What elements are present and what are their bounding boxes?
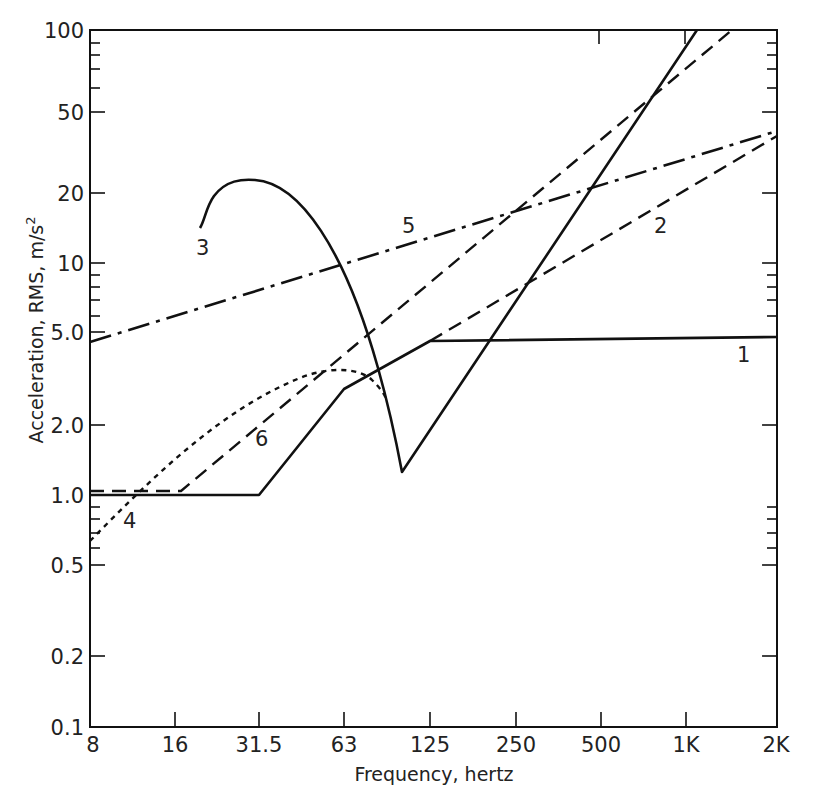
plot-frame (90, 30, 777, 727)
x-axis-ticks (175, 30, 686, 727)
y-axis-left-ticks (90, 43, 105, 656)
x-tick-1k: 1K (672, 733, 700, 757)
curve-5 (90, 131, 777, 342)
x-axis-title: Frequency, hertz (354, 763, 513, 785)
y-tick-100: 100 (44, 19, 84, 43)
curve-1 (90, 337, 777, 495)
curve-label-5: 5 (402, 214, 415, 238)
x-tick-500: 500 (581, 733, 621, 757)
x-tick-63: 63 (331, 733, 358, 757)
x-tick-2k: 2K (762, 733, 790, 757)
x-tick-250: 250 (496, 733, 536, 757)
x-tick-31.5: 31.5 (236, 733, 283, 757)
acceleration-frequency-chart: 0.1 0.2 0.5 1.0 2.0 5.0 10 20 50 100 8 1… (0, 0, 813, 802)
y-tick-0.2: 0.2 (51, 645, 84, 669)
x-tick-125: 125 (410, 733, 450, 757)
curve-label-6: 6 (255, 427, 268, 451)
y-tick-0.5: 0.5 (51, 554, 84, 578)
y-tick-10: 10 (57, 252, 84, 276)
y-tick-50: 50 (57, 101, 84, 125)
curve-3 (200, 30, 697, 472)
curve-label-3: 3 (196, 236, 209, 260)
y-tick-0.1: 0.1 (51, 716, 84, 740)
curve-label-4: 4 (123, 509, 136, 533)
curve-6 (90, 30, 732, 491)
x-tick-8: 8 (86, 733, 99, 757)
y-tick-1.0: 1.0 (51, 484, 84, 508)
y-axis-title: Acceleration, RMS, m/s2 (23, 217, 47, 444)
y-tick-20: 20 (57, 182, 84, 206)
curve-label-1: 1 (737, 343, 750, 367)
curve-label-2: 2 (654, 214, 667, 238)
curve-2 (430, 136, 777, 341)
y-tick-labels: 0.1 0.2 0.5 1.0 2.0 5.0 10 20 50 100 (44, 19, 84, 740)
x-tick-labels: 8 16 31.5 63 125 250 500 1K 2K (86, 733, 790, 757)
y-tick-5.0: 5.0 (51, 321, 84, 345)
y-axis-right-ticks (762, 43, 777, 656)
y-axis-title-group: Acceleration, RMS, m/s2 (23, 217, 47, 444)
x-tick-16: 16 (162, 733, 189, 757)
curve-labels: 1 2 3 4 5 6 (123, 214, 750, 533)
y-tick-2.0: 2.0 (51, 414, 84, 438)
